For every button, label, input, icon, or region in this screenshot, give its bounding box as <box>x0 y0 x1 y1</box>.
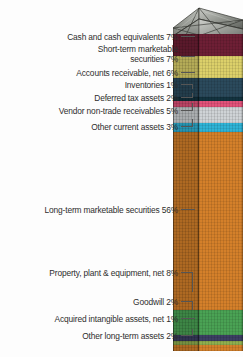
tower-segment-ppe[interactable] <box>173 310 243 335</box>
segment-side-face <box>173 345 199 351</box>
label-ar: Accounts receivable, net 6% <box>8 68 178 78</box>
tower-segment-st-mkt[interactable] <box>173 56 243 78</box>
leader-deferred-h <box>181 97 192 98</box>
tower-segment-ar[interactable] <box>173 78 243 97</box>
segment-front-face <box>199 34 243 56</box>
tower-segment-other-lt[interactable] <box>173 345 243 351</box>
label-st-mkt: Short-term marketable securities 7% <box>8 44 178 65</box>
segment-front-face <box>199 345 243 351</box>
leader-goodwill-v <box>192 301 193 310</box>
leader-st-mkt <box>181 56 195 57</box>
label-other-current: Other current assets 3% <box>8 122 178 132</box>
stacked-assets-tower <box>173 6 243 351</box>
segment-front-face <box>199 310 243 335</box>
leader-ar <box>181 72 195 73</box>
tower-segment-lt-mkt[interactable] <box>173 132 243 310</box>
label-ppe: Property, plant & equipment, net 8% <box>8 268 178 278</box>
label-other-lt: Other long-term assets 2% <box>8 331 178 341</box>
tower-segment-cash[interactable] <box>173 34 243 56</box>
leader-other-current-v <box>192 119 193 127</box>
leader-inventories-v <box>192 84 193 89</box>
label-vendor: Vendor non-trade receivables 5% <box>8 106 178 116</box>
segment-front-face <box>199 56 243 78</box>
leader-cash <box>181 36 195 37</box>
leader-vendor-h <box>181 110 192 111</box>
leader-vendor-v <box>192 103 193 111</box>
leader-goodwill-h <box>181 301 192 302</box>
segment-front-face <box>199 107 243 123</box>
label-deferred: Deferred tax assets 2% <box>8 93 178 103</box>
segment-side-face <box>173 132 199 310</box>
leader-other-lt-v <box>192 329 193 336</box>
leader-lt-mkt <box>181 209 195 210</box>
label-goodwill: Goodwill 2% <box>8 297 178 307</box>
leader-ppe-v <box>192 272 193 292</box>
infographic-canvas: Cash and cash equivalents 7% Short-term … <box>0 0 243 357</box>
leader-other-current-h <box>181 126 192 127</box>
leader-ppe-h <box>181 272 192 273</box>
label-inventories: Inventories 1% <box>8 80 178 90</box>
label-lt-mkt: Long-term marketable securities 56% <box>8 205 178 215</box>
leader-inventories-h <box>181 84 192 85</box>
tower-segment-other-cur[interactable] <box>173 123 243 133</box>
segment-front-face <box>199 132 243 310</box>
segment-front-face <box>199 123 243 133</box>
label-cash: Cash and cash equivalents 7% <box>8 32 178 42</box>
leader-deferred-v <box>192 93 193 98</box>
segment-front-face <box>199 78 243 97</box>
leader-other-lt-h <box>181 335 192 336</box>
leader-intangible <box>181 318 195 319</box>
label-intangible: Acquired intangible assets, net 1% <box>8 314 178 324</box>
